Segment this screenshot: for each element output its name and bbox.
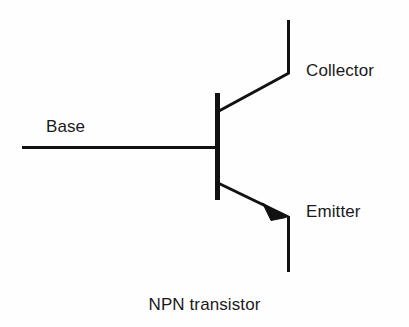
collector-diagonal-line: [218, 73, 289, 112]
emitter-diagonal-line: [218, 183, 289, 217]
base-label: Base: [46, 118, 85, 135]
diagram-caption: NPN transistor: [0, 296, 409, 313]
npn-transistor-diagram: Collector Base Emitter NPN transistor: [0, 0, 409, 327]
emitter-arrowhead-icon: [263, 203, 287, 221]
collector-label: Collector: [306, 62, 374, 79]
transistor-schematic-svg: [0, 0, 409, 327]
emitter-label: Emitter: [306, 203, 361, 220]
